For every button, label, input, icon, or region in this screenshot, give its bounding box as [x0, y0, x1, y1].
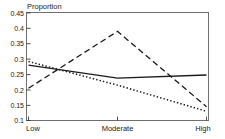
proportion-line-chart: Proportion 0.45 0.4 0.35 0.3 0.25 0.2 0.…: [0, 0, 225, 139]
y-tick-label: 0.2: [14, 87, 24, 94]
y-tick-label: 0.4: [14, 25, 24, 32]
x-tick-label-moderate: Moderate: [102, 124, 134, 133]
x-tick-label-high: High: [195, 124, 210, 133]
y-tick-label: 0.1: [14, 117, 24, 124]
chart-canvas: Proportion 0.45 0.4 0.35 0.3 0.25 0.2 0.…: [0, 0, 225, 139]
chart-background: [0, 0, 225, 139]
y-tick-label: 0.35: [10, 40, 24, 47]
y-tick-label: 0.45: [10, 10, 24, 17]
y-tick-label: 0.25: [10, 71, 24, 78]
y-tick-label: 0.3: [14, 56, 24, 63]
y-axis-title: Proportion: [27, 2, 62, 11]
x-tick-label-low: Low: [26, 124, 40, 133]
y-tick-label: 0.15: [10, 102, 24, 109]
